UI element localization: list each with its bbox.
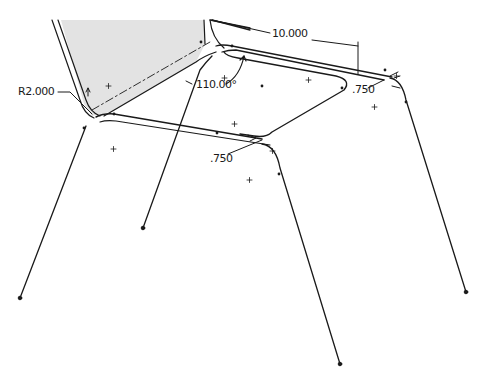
back-panel [61, 20, 205, 116]
leg-front [262, 144, 340, 364]
offset-front-dimension-label[interactable]: .750 [210, 153, 233, 165]
cad-sketch-canvas: R2.000 110.00° 10.000 .750 .750 [0, 0, 483, 380]
length-dim-line-right [312, 40, 358, 46]
chair-frame-sketch [0, 0, 483, 380]
leg-end-point [141, 226, 145, 230]
seat-front-rail-inner [100, 121, 270, 145]
leg-right [390, 78, 466, 292]
leg-end-point [18, 296, 22, 300]
length-dimension-label[interactable]: 10.000 [272, 28, 308, 40]
leg-end-point [464, 290, 468, 294]
offset-right-dimension-label[interactable]: .750 [352, 84, 375, 96]
length-dim-line-left [212, 20, 270, 33]
seat-right-rail-inner [222, 50, 384, 80]
back-right-rail-2 [210, 20, 224, 48]
leg-back-left [20, 126, 86, 298]
leg-end-point [338, 362, 342, 366]
offset-front-leader [228, 140, 262, 154]
radius-dimension-label[interactable]: R2.000 [18, 86, 54, 98]
angle-leader [186, 81, 192, 84]
angle-dimension-label[interactable]: 110.00° [196, 79, 237, 91]
